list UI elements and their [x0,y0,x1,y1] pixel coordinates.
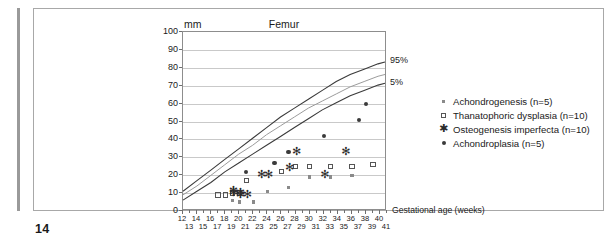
y-axis-tick-label: 90 [156,45,178,54]
x-axis-tick-mark [288,210,289,213]
data-point-thanatophoric-dysplasia [279,169,284,174]
x-axis-tick-label: 21 [238,223,252,231]
data-point-achondrogenesis [308,175,311,178]
y-axis-tick-mark [179,156,182,157]
legend-label: Achondroplasia (n=5) [453,138,544,149]
data-point-achondrogenesis [266,190,269,193]
asterisk-icon: ✱ [438,123,450,135]
data-point-achondroplasia [286,150,290,154]
x-axis-tick-mark [189,210,190,213]
figure-frame: mm Femur ✻✻✻✻✻✻✻✻✻✻✻ 0102030405060708090… [33,8,604,211]
figure-page: mm Femur ✻✻✻✻✻✻✻✻✻✻✻ 0102030405060708090… [0,0,613,245]
data-point-achondrogenesis [252,200,255,203]
x-axis-tick-label: 25 [266,223,280,231]
reference-curves [183,32,385,209]
x-axis-tick-mark [358,210,359,213]
y-axis-tick-label: 60 [156,99,178,108]
page-number: 14 [35,222,49,236]
x-axis-tick-mark [203,210,204,213]
data-point-achondrogenesis [350,174,353,177]
x-axis-tick-mark [330,210,331,213]
chart-title: Femur [182,18,386,30]
data-point-thanatophoric-dysplasia [307,164,312,169]
data-point-achondroplasia [364,102,368,106]
x-axis-tick-label: 41 [379,223,393,231]
x-axis-tick-mark [344,210,345,213]
x-axis-tick-label: 33 [323,223,337,231]
y-axis-tick-label: 10 [156,188,178,197]
data-point-achondrogenesis [287,186,290,189]
open-square-icon [438,109,450,121]
y-axis-tick-mark [179,121,182,122]
data-point-thanatophoric-dysplasia [223,192,228,197]
data-point-achondroplasia [357,118,361,122]
x-axis-tick-mark [372,210,373,213]
data-point-achondroplasia [272,161,276,165]
plot-area: ✻✻✻✻✻✻✻✻✻✻✻ [182,31,386,210]
data-point-thanatophoric-dysplasia [244,178,249,183]
y-axis-tick-label: 20 [156,170,178,179]
x-axis-tick-mark [217,210,218,213]
x-axis-tick-mark [259,210,260,213]
x-axis-tick-label: 31 [309,223,323,231]
y-axis-tick-mark [179,138,182,139]
legend-label: Achondrogenesis (n=5) [453,96,552,107]
x-axis-tick-mark [273,210,274,213]
y-axis-tick-label: 50 [156,117,178,126]
y-axis-tick-mark [179,192,182,193]
x-axis-tick-label: 27 [281,223,295,231]
x-axis-tick-mark [302,210,303,213]
reference-curve [183,83,385,200]
small-filled-square-icon [438,95,450,107]
x-axis-tick-label: 23 [252,223,266,231]
x-axis-tick-label: 17 [210,223,224,231]
data-point-thanatophoric-dysplasia [370,162,375,167]
y-axis-tick-label: 30 [156,152,178,161]
data-point-thanatophoric-dysplasia [215,192,220,197]
data-point-thanatophoric-dysplasia [349,164,354,169]
x-axis-tick-mark [231,210,232,213]
page-margin-rule [17,8,20,211]
legend-label: Osteogenesis imperfecta (n=10) [453,124,590,135]
x-axis-tick-label: 29 [295,223,309,231]
data-point-achondroplasia [322,134,326,138]
x-axis-tick-label: 37 [351,223,365,231]
y-axis-tick-mark [179,49,182,50]
y-axis-tick-label: 0 [156,206,178,215]
curve-label-95pct: 95% [390,55,408,65]
curve-label-5pct: 5% [390,77,403,87]
legend-item-achondroplasia: Achondroplasia (n=5) [438,136,613,150]
data-point-achondrogenesis [231,199,234,202]
y-axis-tick-label: 70 [156,81,178,90]
legend-item-thanatophoric-dysplasia: Thanatophoric dysplasia (n=10) [438,108,613,122]
data-point-achondrogenesis [329,175,332,178]
x-axis-tick-label: 35 [337,223,351,231]
y-axis-tick-label: 100 [156,27,178,36]
y-axis-tick-mark [179,174,182,175]
x-axis-title: Gestational age (weeks) [392,205,485,215]
y-axis-tick-mark [179,103,182,104]
filled-circle-icon [438,137,450,149]
y-axis-tick-mark [179,85,182,86]
x-axis-tick-mark [316,210,317,213]
x-axis-tick-mark [386,210,387,213]
x-axis-tick-label: 39 [365,223,379,231]
x-axis-tick-label: 13 [182,223,196,231]
x-axis-tick-label: 15 [196,223,210,231]
legend-item-osteogenesis-imperfecta: ✱ Osteogenesis imperfecta (n=10) [438,122,613,136]
y-axis-tick-mark [179,67,182,68]
legend-label: Thanatophoric dysplasia (n=10) [453,110,588,121]
y-axis-tick-label: 40 [156,134,178,143]
chart-legend: Achondrogenesis (n=5) Thanatophoric dysp… [438,94,613,150]
legend-item-achondrogenesis: Achondrogenesis (n=5) [438,94,613,108]
y-axis-tick-mark [179,31,182,32]
x-axis-tick-label: 19 [224,223,238,231]
x-axis-tick-mark [245,210,246,213]
y-axis-tick-label: 80 [156,63,178,72]
